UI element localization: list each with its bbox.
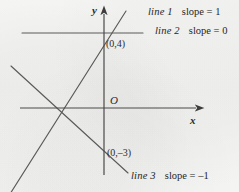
legend-entry-line-3: line 3slope = –1 bbox=[131, 170, 209, 181]
point-label-0-4: (0,4) bbox=[106, 39, 125, 49]
x-axis-label: x bbox=[190, 115, 196, 126]
legend-name-line-1: line 1 bbox=[148, 6, 173, 17]
point-label-0-minus-3: (0,–3) bbox=[107, 148, 131, 158]
legend-slope-line-3: slope = –1 bbox=[165, 170, 209, 181]
math-figure: y x O (0,4) (0,–3) line 1slope = 1 line … bbox=[0, 0, 239, 192]
y-axis-label: y bbox=[92, 5, 97, 16]
origin-label: O bbox=[110, 95, 118, 106]
legend-slope-line-1: slope = 1 bbox=[182, 6, 221, 17]
legend-entry-line-2: line 2slope = 0 bbox=[155, 25, 227, 36]
legend-name-line-3: line 3 bbox=[131, 170, 156, 181]
legend-entry-line-1: line 1slope = 1 bbox=[148, 6, 220, 17]
legend-name-line-2: line 2 bbox=[155, 25, 180, 36]
legend-slope-line-2: slope = 0 bbox=[189, 25, 228, 36]
